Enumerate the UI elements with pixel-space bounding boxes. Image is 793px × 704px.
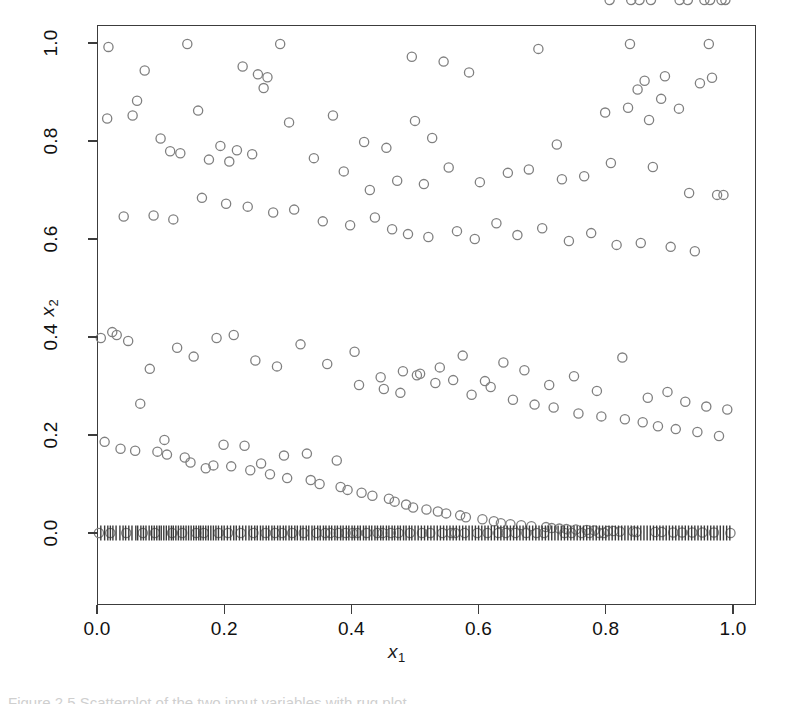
x-axis-tick-mark bbox=[351, 605, 352, 614]
x-axis-tick-label: 0.2 bbox=[189, 618, 259, 640]
data-point bbox=[721, 0, 730, 5]
data-point bbox=[635, 0, 644, 5]
x-axis-title: x1 bbox=[0, 641, 793, 665]
figure-caption-partial: Figure 2.5 Scatterplot of the two input … bbox=[8, 694, 708, 704]
data-point bbox=[627, 0, 636, 5]
x-axis-tick-label: 1.0 bbox=[698, 618, 768, 640]
y-axis-tick-mark bbox=[88, 336, 97, 337]
data-point bbox=[605, 0, 614, 5]
scatter-figure: 0.00.20.40.60.81.0 0.00.20.40.60.81.0 x1… bbox=[0, 0, 793, 704]
x-axis-tick-label: 0.6 bbox=[444, 618, 514, 640]
x-axis-tick-label: 0.0 bbox=[62, 618, 132, 640]
x-axis-tick-mark bbox=[224, 605, 225, 614]
y-axis-title-subscript: 2 bbox=[46, 299, 61, 307]
data-point bbox=[646, 0, 655, 5]
y-axis-tick-label: 0.0 bbox=[40, 498, 62, 568]
x-axis-tick-mark bbox=[96, 605, 97, 614]
x-axis-tick-label: 0.8 bbox=[571, 618, 641, 640]
x-axis-title-subscript: 1 bbox=[397, 650, 405, 665]
data-point bbox=[683, 0, 692, 5]
y-axis-tick-mark bbox=[88, 238, 97, 239]
y-axis-tick-label: 0.2 bbox=[40, 400, 62, 470]
x-axis-title-base: x bbox=[388, 641, 398, 662]
data-point bbox=[717, 0, 726, 5]
plot-area bbox=[97, 25, 756, 605]
y-axis-tick-label: 0.8 bbox=[40, 106, 62, 176]
y-axis-tick-mark bbox=[88, 42, 97, 43]
y-axis-tick-mark bbox=[88, 434, 97, 435]
data-point bbox=[706, 0, 715, 5]
y-axis-title: x2 bbox=[37, 253, 61, 363]
x-axis-tick-mark bbox=[732, 605, 733, 614]
y-axis-tick-mark bbox=[88, 140, 97, 141]
y-axis-tick-mark bbox=[88, 532, 97, 533]
y-axis-tick-label: 1.0 bbox=[40, 8, 62, 78]
x-axis-tick-mark bbox=[478, 605, 479, 614]
data-point bbox=[675, 0, 684, 5]
data-point bbox=[700, 0, 709, 5]
y-axis-title-base: x bbox=[37, 307, 58, 317]
x-axis-tick-label: 0.4 bbox=[316, 618, 386, 640]
x-axis-tick-mark bbox=[605, 605, 606, 614]
